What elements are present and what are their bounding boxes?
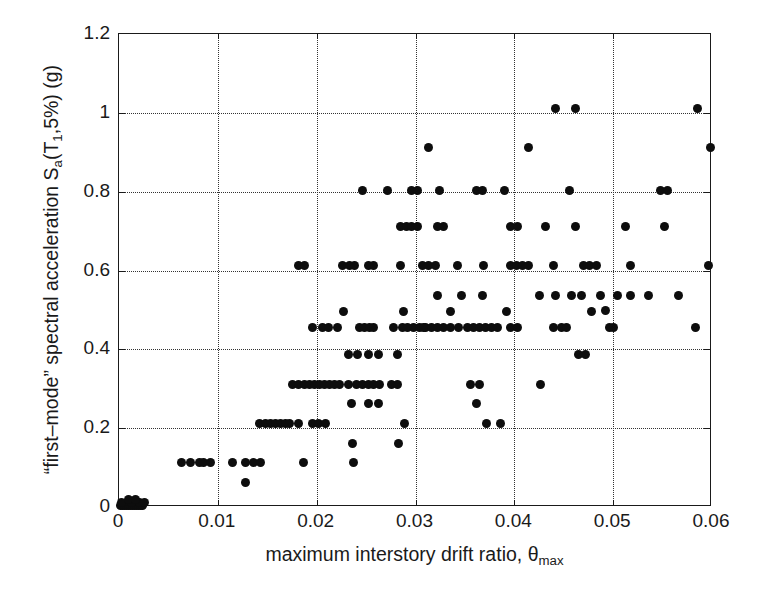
- scatter-point: [116, 501, 125, 510]
- x-axis-title: maximum interstory drift ratio, θmax: [118, 543, 711, 568]
- scatter-point: [177, 458, 186, 467]
- y-tick-mark: [119, 192, 125, 193]
- x-tick-mark: [317, 34, 318, 39]
- scatter-point: [663, 186, 672, 195]
- x-axis-title-text: maximum interstory drift ratio,: [265, 543, 527, 565]
- scatter-point: [128, 501, 137, 510]
- scatter-point: [577, 291, 586, 300]
- y-axis-title-sub-1: 1: [50, 134, 65, 141]
- gridline-horizontal: [119, 192, 710, 193]
- scatter-point: [571, 222, 580, 231]
- scatter-point: [118, 501, 127, 510]
- scatter-point: [472, 186, 481, 195]
- gridline-vertical: [613, 34, 614, 505]
- scatter-point: [407, 222, 416, 231]
- scatter-point: [535, 291, 544, 300]
- scatter-point: [513, 323, 522, 332]
- scatter-point: [365, 323, 374, 332]
- scatter-point: [421, 323, 430, 332]
- scatter-point: [315, 380, 324, 389]
- scatter-point: [374, 399, 383, 408]
- scatter-point: [613, 291, 622, 300]
- scatter-point: [199, 458, 208, 467]
- scatter-point: [241, 458, 250, 467]
- scatter-point: [249, 458, 258, 467]
- x-tick-label: 0: [113, 511, 124, 531]
- y-tick-label: 0: [99, 496, 110, 516]
- scatter-point: [621, 222, 630, 231]
- scatter-point: [353, 350, 362, 359]
- x-tick-mark: [514, 34, 515, 39]
- scatter-point: [206, 458, 215, 467]
- scatter-point: [585, 261, 594, 270]
- y-tick-mark: [704, 349, 710, 350]
- scatter-point: [324, 323, 333, 332]
- scatter-point: [318, 323, 327, 332]
- scatter-point: [482, 419, 491, 428]
- scatter-point: [369, 380, 378, 389]
- scatter-point: [693, 104, 702, 113]
- scatter-point: [122, 501, 131, 510]
- scatter-point: [348, 439, 357, 448]
- scatter-point: [294, 261, 303, 270]
- scatter-point: [130, 501, 139, 510]
- y-tick-label: 1.2: [84, 23, 110, 43]
- y-axis-title: “first–mode” spectral acceleration Sa(T1…: [34, 33, 68, 506]
- scatter-point: [120, 501, 129, 510]
- x-tick-label: 0.04: [495, 511, 532, 531]
- scatter-point: [571, 104, 580, 113]
- scatter-point: [299, 458, 308, 467]
- scatter-point: [320, 380, 329, 389]
- scatter-point: [433, 323, 442, 332]
- scatter-point: [308, 419, 317, 428]
- scatter-point: [551, 104, 560, 113]
- y-tick-label: 0.6: [84, 260, 110, 280]
- scatter-point: [400, 419, 409, 428]
- scatter-point: [305, 380, 314, 389]
- scatter-point: [131, 495, 140, 504]
- scatter-point: [126, 501, 135, 510]
- x-tick-mark: [613, 500, 614, 505]
- y-tick-mark: [119, 428, 125, 429]
- x-tick-label: 0.06: [693, 511, 730, 531]
- scatter-point: [415, 323, 424, 332]
- scatter-point: [288, 380, 297, 389]
- scatter-point: [487, 323, 496, 332]
- scatter-point: [300, 380, 309, 389]
- scatter-point: [310, 380, 319, 389]
- gridline-horizontal: [119, 113, 710, 114]
- y-tick-mark: [704, 192, 710, 193]
- scatter-point: [350, 261, 359, 270]
- scatter-point: [195, 458, 204, 467]
- scatter-point: [117, 498, 126, 507]
- scatter-point: [241, 478, 250, 487]
- scatter-point: [314, 419, 323, 428]
- scatter-point: [431, 261, 440, 270]
- scatter-point: [478, 186, 487, 195]
- scatter-point: [358, 380, 367, 389]
- scatter-point: [424, 261, 433, 270]
- x-tick-label: 0.01: [198, 511, 235, 531]
- scatter-point: [567, 291, 576, 300]
- scatter-point: [549, 261, 558, 270]
- scatter-point: [579, 261, 588, 270]
- scatter-point: [524, 261, 533, 270]
- scatter-point: [446, 323, 455, 332]
- scatter-point: [660, 222, 669, 231]
- gridline-horizontal: [119, 349, 710, 350]
- gridline-vertical: [317, 34, 318, 505]
- scatter-point: [369, 261, 378, 270]
- x-tick-mark: [416, 500, 417, 505]
- scatter-point: [325, 380, 334, 389]
- y-tick-label: 0.8: [84, 181, 110, 201]
- theta-symbol: θ: [528, 543, 539, 565]
- scatter-point: [333, 323, 342, 332]
- scatter-points: [119, 34, 710, 505]
- figure-canvas: 00.20.40.60.811.2 00.010.020.030.040.050…: [0, 0, 764, 594]
- scatter-point: [389, 323, 398, 332]
- y-tick-label: 1: [99, 102, 110, 122]
- scatter-point: [605, 323, 614, 332]
- gridlines: [119, 34, 710, 505]
- scatter-point: [453, 261, 462, 270]
- scatter-point: [446, 307, 455, 316]
